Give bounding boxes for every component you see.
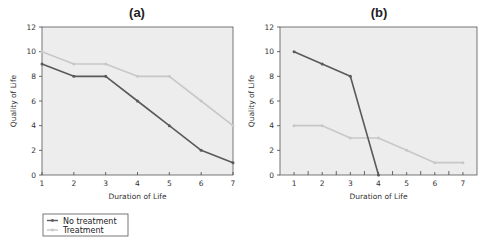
y-tick-label: 2: [31, 146, 36, 155]
x-axis-label: Duration of Life: [108, 192, 166, 201]
data-point: [349, 137, 352, 140]
y-tick-label: 10: [26, 47, 36, 56]
figure: (a)0246810121234567Duration of LifeQuali…: [0, 0, 491, 246]
data-point: [41, 63, 44, 66]
x-tick-label: 5: [167, 179, 172, 188]
y-tick-label: 4: [269, 121, 274, 130]
y-tick-label: 2: [269, 146, 274, 155]
data-point: [168, 75, 171, 78]
x-tick-label: 4: [376, 179, 381, 188]
legend-label: Treatment: [62, 226, 104, 235]
chart-b: (b)0246810121234567Duration of LifeQuali…: [247, 5, 477, 201]
x-tick-label: 2: [71, 179, 76, 188]
legend-label: No treatment: [63, 217, 117, 226]
y-tick-label: 12: [264, 23, 274, 32]
data-point: [41, 50, 44, 53]
y-tick-label: 8: [31, 72, 36, 81]
y-tick-label: 6: [269, 97, 274, 106]
y-axis-label: Quality of Life: [9, 74, 18, 127]
data-point: [232, 161, 235, 164]
x-axis-label: Duration of Life: [349, 192, 407, 201]
y-tick-label: 4: [31, 121, 36, 130]
data-point: [433, 161, 436, 164]
data-point: [168, 124, 171, 127]
plot-area: [280, 27, 477, 175]
chart-title: (b): [371, 5, 388, 20]
x-tick-label: 1: [292, 179, 297, 188]
x-tick-label: 7: [461, 179, 466, 188]
y-tick-label: 0: [269, 171, 274, 180]
data-point: [321, 124, 324, 127]
x-tick-label: 3: [103, 179, 108, 188]
data-point: [377, 174, 380, 177]
x-tick-label: 4: [135, 179, 140, 188]
chart-title: (a): [129, 5, 145, 20]
y-axis-label: Quality of Life: [247, 74, 256, 127]
data-point: [405, 149, 408, 152]
data-point: [200, 149, 203, 152]
data-point: [136, 75, 139, 78]
y-tick-label: 0: [31, 171, 36, 180]
data-point: [349, 75, 352, 78]
x-tick-label: 6: [199, 179, 204, 188]
data-point: [293, 50, 296, 53]
data-point: [232, 124, 235, 127]
data-point: [104, 63, 107, 66]
x-tick-label: 1: [40, 179, 45, 188]
legend: No treatmentTreatment: [43, 214, 128, 236]
x-tick-label: 6: [432, 179, 437, 188]
data-point: [293, 124, 296, 127]
chart-a: (a)0246810121234567Duration of LifeQuali…: [9, 5, 236, 201]
data-point: [200, 100, 203, 103]
y-tick-label: 6: [31, 97, 36, 106]
y-tick-label: 12: [26, 23, 36, 32]
data-point: [104, 75, 107, 78]
data-point: [321, 63, 324, 66]
data-point: [377, 137, 380, 140]
x-tick-label: 5: [404, 179, 409, 188]
data-point: [72, 63, 75, 66]
data-point: [461, 161, 464, 164]
data-point: [72, 75, 75, 78]
x-tick-label: 3: [348, 179, 353, 188]
y-tick-label: 10: [264, 47, 274, 56]
data-point: [136, 100, 139, 103]
y-tick-label: 8: [269, 72, 274, 81]
x-tick-label: 2: [320, 179, 325, 188]
x-tick-label: 7: [231, 179, 236, 188]
